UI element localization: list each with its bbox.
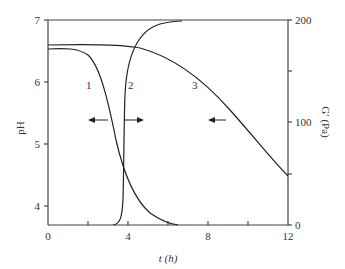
y-right-tick-0: 0 <box>295 219 301 231</box>
x-tick-12: 12 <box>283 230 294 242</box>
curve-3-arrow-left-icon <box>208 117 226 123</box>
curve-2 <box>113 21 182 225</box>
x-tick-8: 8 <box>205 230 211 242</box>
y-right-axis-title: G′ (Pa) <box>319 106 332 138</box>
x-tick-4: 4 <box>125 230 131 242</box>
curve-2-label: 2 <box>128 79 134 91</box>
x-tick-0: 0 <box>45 230 51 242</box>
curve-1-arrow-left-icon <box>88 117 108 123</box>
y-left-tick-4: 4 <box>35 200 41 212</box>
y-left-tick-7: 7 <box>35 14 41 26</box>
x-axis-title: t (h) <box>159 252 178 265</box>
curve-1 <box>48 49 178 225</box>
y-right-tick-200: 200 <box>295 14 312 26</box>
y-left-axis-title: pH <box>14 121 26 135</box>
y-right-tick-100: 100 <box>295 116 312 128</box>
chart-canvas: 7 6 5 4 200 100 0 0 4 8 12 t (h) pH G′ (… <box>0 0 345 269</box>
y-left-tick-6: 6 <box>35 76 41 88</box>
curve-3-label: 3 <box>192 79 198 91</box>
curve-3 <box>48 44 288 176</box>
curve-2-arrow-right-icon <box>125 117 144 123</box>
y-left-tick-5: 5 <box>35 138 41 150</box>
curve-1-label: 1 <box>86 79 92 91</box>
